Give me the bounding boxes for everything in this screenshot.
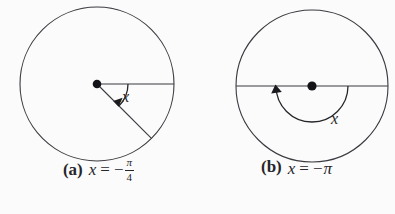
angle-label-b: x xyxy=(331,111,338,127)
center-dot-a xyxy=(93,80,102,89)
caption-label-b: (b) xyxy=(261,157,282,176)
caption-minus-a: − xyxy=(114,160,124,179)
angle-label-a: x xyxy=(122,89,129,105)
caption-fraction-numerator-a: π xyxy=(125,157,135,169)
caption-b: (b)x=−π xyxy=(198,158,395,177)
caption-variable-b: x xyxy=(288,159,296,178)
center-dot-b xyxy=(307,81,316,90)
caption-equation-b: x=−π xyxy=(288,160,332,177)
figure-panel-b: x (b)x=−π xyxy=(198,0,395,214)
figure-panel-a: x (a)x=−π4 xyxy=(0,0,197,214)
caption-variable-a: x xyxy=(89,160,97,179)
caption-fraction-denominator-a: 4 xyxy=(125,172,135,184)
caption-equation-a: x=−π4 xyxy=(89,158,134,184)
figure-pair-container: x (a)x=−π4 x (b)x=−π xyxy=(0,0,395,214)
angle-diagram-a xyxy=(0,0,197,165)
caption-label-a: (a) xyxy=(63,160,83,179)
caption-equals-b: = xyxy=(299,159,309,178)
caption-pi-b: π xyxy=(323,159,332,178)
caption-equals-a: = xyxy=(100,160,110,179)
caption-fraction-a: π4 xyxy=(125,157,135,183)
caption-a: (a)x=−π4 xyxy=(0,158,197,184)
angle-diagram-b xyxy=(198,0,395,165)
caption-minus-b: − xyxy=(313,159,323,178)
